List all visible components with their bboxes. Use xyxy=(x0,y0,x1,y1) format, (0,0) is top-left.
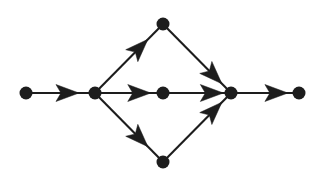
node-bottom-node[interactable] xyxy=(157,156,170,169)
node-top-node[interactable] xyxy=(157,18,170,31)
node-middle-node[interactable] xyxy=(157,87,170,100)
edge-branch-to-bottom xyxy=(99,97,159,158)
edge-branch-to-top xyxy=(99,28,159,89)
node-source-node[interactable] xyxy=(20,87,33,100)
node-sink-node[interactable] xyxy=(293,87,306,100)
node-merge-node[interactable] xyxy=(225,87,238,100)
diagram-canvas xyxy=(0,0,322,180)
directed-graph xyxy=(0,0,322,180)
node-branch-node[interactable] xyxy=(89,87,102,100)
